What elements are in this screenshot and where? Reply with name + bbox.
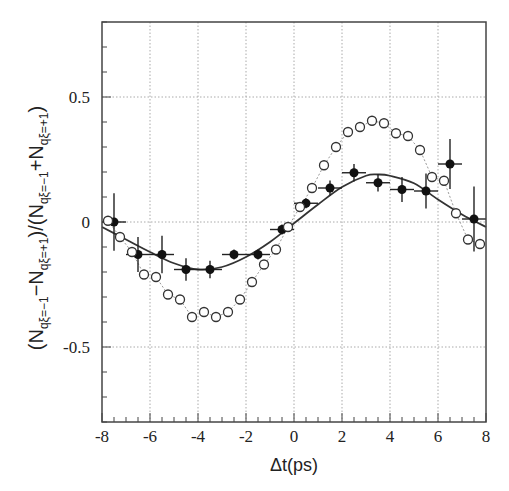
open-marker [152, 273, 161, 282]
x-tick-label: -8 [95, 427, 109, 446]
x-tick-label: 0 [290, 427, 299, 446]
open-marker [104, 216, 113, 225]
filled-marker [206, 265, 215, 274]
open-marker [440, 176, 449, 185]
open-marker [272, 245, 281, 254]
filled-marker [398, 185, 407, 194]
filled-marker [158, 250, 167, 259]
x-tick-label: 8 [482, 427, 491, 446]
open-marker [200, 308, 209, 317]
open-marker [332, 143, 341, 152]
x-tick-label: -2 [239, 427, 253, 446]
filled-marker [422, 187, 431, 196]
y-axis-label: (Nqξ=−1−Nqξ=+1)/(Nqξ=−1+Nqξ=+1) [25, 106, 51, 350]
ylabel-part: ) [25, 106, 47, 113]
open-marker [416, 146, 425, 155]
ylabel-part: )/(N [25, 204, 47, 237]
open-marker [248, 278, 257, 287]
open-marker [224, 308, 233, 317]
ylabel-part: +N [25, 145, 47, 171]
open-marker [116, 233, 125, 242]
x-axis-label: Δt(ps) [270, 455, 318, 475]
open-marker [140, 270, 149, 279]
y-tick-label: -0.5 [63, 338, 90, 357]
ylabel-part: −N [25, 270, 47, 296]
open-marker [476, 240, 485, 249]
open-marker [296, 203, 305, 212]
filled-marker [446, 160, 455, 169]
open-marker [344, 128, 353, 137]
ylabel-part: (N [25, 329, 47, 350]
x-tick-label: 2 [338, 427, 347, 446]
open-marker [260, 260, 269, 269]
ylabel-sub: qξ=−1 [37, 171, 51, 204]
x-tick-label: 4 [386, 427, 395, 446]
x-tick-label: -4 [191, 427, 206, 446]
ylabel-sub: qξ=−1 [37, 296, 51, 329]
open-marker [452, 209, 461, 218]
open-marker [380, 119, 389, 128]
open-marker [308, 184, 317, 193]
x-tick-label: -6 [143, 427, 157, 446]
open-marker [356, 123, 365, 132]
x-tick-labels: -8-6-4-202468 [95, 427, 490, 446]
open-marker [188, 313, 197, 322]
y-tick-labels: -0.500.5 [63, 88, 90, 357]
filled-marker [470, 215, 479, 224]
open-marker [236, 295, 245, 304]
x-tick-label: 6 [434, 427, 443, 446]
open-marker [320, 161, 329, 170]
open-marker [404, 132, 413, 141]
open-marker [428, 173, 437, 182]
open-marker [164, 290, 173, 299]
open-marker [464, 235, 473, 244]
y-tick-label: 0 [82, 213, 91, 232]
grid-lines [102, 22, 486, 422]
filled-marker [374, 178, 383, 187]
open-marker [128, 248, 137, 257]
ylabel-sub: qξ=+1 [37, 237, 51, 270]
ylabel-sub: qξ=+1 [37, 112, 51, 145]
filled-marker [230, 250, 239, 259]
filled-marker [182, 265, 191, 274]
filled-data-points [102, 139, 486, 281]
open-marker [212, 313, 221, 322]
open-marker [176, 295, 185, 304]
open-marker [392, 129, 401, 138]
filled-marker [350, 168, 359, 177]
filled-marker [254, 250, 263, 259]
filled-marker [326, 184, 335, 193]
y-tick-label: 0.5 [69, 88, 90, 107]
open-marker [368, 116, 377, 125]
chart-canvas: -8-6-4-202468 -0.500.5 Δt(ps) [0, 0, 509, 491]
open-marker [284, 223, 293, 232]
